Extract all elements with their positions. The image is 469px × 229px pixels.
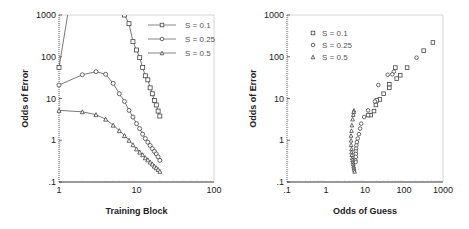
circle-marker-icon	[359, 122, 363, 126]
x-tick-label: 1	[323, 185, 328, 195]
circle-marker-icon	[117, 92, 121, 96]
circle-marker-icon	[111, 81, 115, 85]
circle-marker-icon	[160, 37, 164, 41]
y-tick-label: 100	[269, 52, 284, 62]
x-axis-label: Odds of Guess	[333, 206, 397, 216]
square-marker-icon	[398, 73, 402, 77]
square-marker-icon	[422, 49, 426, 53]
square-marker-icon	[158, 114, 162, 118]
series-square	[57, 13, 162, 118]
circle-marker-icon	[373, 100, 377, 104]
y-tick-label: 100	[41, 52, 56, 62]
legend-label: S = 0.1	[185, 21, 211, 30]
triangle-marker-icon	[94, 113, 98, 117]
circle-marker-icon	[131, 115, 135, 119]
square-marker-icon	[127, 22, 131, 26]
square-marker-icon	[138, 56, 142, 60]
circle-marker-icon	[354, 155, 358, 159]
circle-marker-icon	[377, 83, 381, 87]
right-plot-odds-of-guess: .11101001000.11101001000Odds of GuessOdd…	[248, 10, 453, 216]
square-marker-icon	[366, 113, 370, 117]
square-marker-icon	[405, 66, 409, 70]
x-axis-ticks: .11101001000	[283, 185, 453, 195]
x-tick-label: 10	[360, 185, 370, 195]
y-tick-label: 10	[46, 94, 56, 104]
square-marker-icon	[131, 40, 135, 44]
x-tick-label: 10	[131, 185, 141, 195]
triangle-marker-icon	[57, 108, 61, 112]
x-axis-label: Training Block	[105, 206, 168, 216]
y-tick-label: 1	[279, 135, 284, 145]
legend: S = 0.1S = 0.25S = 0.5	[148, 21, 216, 58]
circle-marker-icon	[386, 73, 390, 77]
square-marker-icon	[374, 103, 378, 107]
triangle-marker-icon	[349, 143, 353, 147]
circle-marker-icon	[127, 108, 131, 112]
square-marker-icon	[148, 86, 152, 90]
square-marker-icon	[431, 41, 435, 45]
circle-marker-icon	[141, 132, 145, 136]
legend-label: S = 0.1	[322, 29, 348, 38]
square-marker-icon	[122, 13, 126, 17]
square-marker-icon	[395, 77, 399, 81]
circle-marker-icon	[357, 132, 361, 136]
legend: S = 0.1S = 0.25S = 0.5	[311, 29, 352, 62]
circle-marker-icon	[80, 73, 84, 77]
square-marker-icon	[388, 82, 392, 86]
square-marker-icon	[135, 48, 139, 52]
circle-marker-icon	[135, 122, 139, 126]
circle-marker-icon	[138, 127, 142, 131]
circle-marker-icon	[356, 137, 360, 141]
chart-figure: 110100.11101001000Training BlockOdds of …	[0, 0, 469, 229]
legend-label: S = 0.5	[322, 53, 348, 62]
plot-area	[57, 13, 162, 173]
circle-marker-icon	[415, 56, 419, 60]
square-marker-icon	[57, 66, 61, 70]
square-marker-icon	[152, 98, 156, 102]
square-marker-icon	[382, 92, 386, 96]
y-tick-label: .1	[48, 177, 56, 187]
square-marker-icon	[372, 109, 376, 113]
square-marker-icon	[143, 74, 147, 78]
legend-label: S = 0.25	[322, 41, 353, 50]
circle-marker-icon	[158, 158, 162, 162]
triangle-marker-icon	[104, 117, 108, 121]
square-marker-icon	[150, 92, 154, 96]
y-tick-label: 1	[51, 135, 56, 145]
triangle-marker-icon	[350, 129, 354, 133]
circle-marker-icon	[143, 137, 147, 141]
circle-marker-icon	[366, 109, 370, 113]
circle-marker-icon	[104, 72, 108, 76]
square-marker-icon	[160, 23, 164, 27]
square-marker-icon	[146, 78, 150, 82]
x-axis-ticks: 110100	[56, 185, 221, 195]
triangle-marker-icon	[350, 123, 354, 127]
square-marker-icon	[311, 31, 315, 35]
circle-marker-icon	[358, 127, 362, 131]
series-square	[366, 41, 434, 117]
plot-frame	[287, 15, 443, 182]
y-axis-ticks: .11101001000	[264, 10, 290, 187]
y-tick-label: 10	[274, 94, 284, 104]
circle-marker-icon	[311, 43, 315, 47]
y-axis-label: Odds of Error	[248, 69, 258, 128]
circle-marker-icon	[57, 83, 61, 87]
legend-label: S = 0.5	[185, 49, 211, 58]
square-marker-icon	[141, 66, 145, 70]
y-tick-label: 1000	[36, 10, 56, 20]
x-tick-label: .1	[283, 185, 291, 195]
triangle-marker-icon	[349, 138, 353, 142]
circle-marker-icon	[94, 70, 98, 74]
circle-marker-icon	[122, 99, 126, 103]
x-tick-label: 1	[56, 185, 61, 195]
triangle-marker-icon	[160, 51, 164, 55]
circle-marker-icon	[390, 72, 394, 76]
legend-label: S = 0.25	[185, 35, 216, 44]
triangle-marker-icon	[351, 117, 355, 121]
x-tick-label: 1000	[433, 185, 453, 195]
square-marker-icon	[156, 109, 160, 113]
y-axis-label: Odds of Error	[20, 69, 30, 128]
series-circle	[354, 56, 419, 164]
square-marker-icon	[154, 103, 158, 107]
circle-marker-icon	[362, 115, 366, 119]
